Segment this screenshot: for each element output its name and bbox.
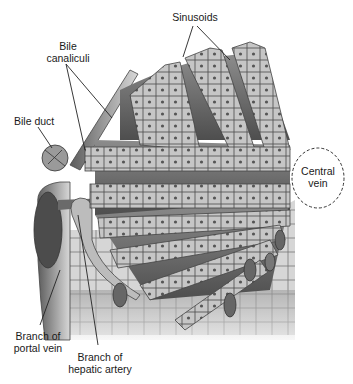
label-hepatic-artery: Branch of hepatic artery (64, 351, 136, 375)
label-central-vein: Central vein (292, 165, 344, 189)
label-portal-vein: Branch of portal vein (8, 330, 68, 354)
label-bile-duct: Bile duct (14, 115, 74, 127)
label-bile-canaliculi: Bile canaliculi (38, 40, 98, 64)
label-sinusoids: Sinusoids (165, 11, 225, 23)
